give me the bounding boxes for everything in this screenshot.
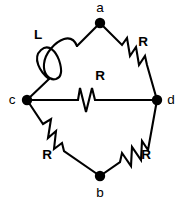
wire-c-to-b-with-resistor bbox=[27, 100, 100, 176]
branch-inductor-c-a: L bbox=[27, 23, 100, 100]
resistor-label-c-b: R bbox=[42, 147, 52, 162]
node-dot-d bbox=[152, 95, 162, 105]
inductor-coil-icon bbox=[37, 38, 77, 79]
resistor-label-a-d: R bbox=[138, 34, 148, 49]
node-dot-c bbox=[22, 95, 32, 105]
node-label-c: c bbox=[9, 92, 16, 107]
wire-b-to-d-with-resistor bbox=[100, 100, 157, 176]
circuit-canvas: L R R R R a c bbox=[0, 0, 182, 208]
wire-a-to-d-with-resistor bbox=[100, 23, 157, 100]
inductor-label-L: L bbox=[34, 27, 42, 42]
branch-resistor-b-d: R bbox=[100, 100, 157, 176]
node-a-group: a bbox=[95, 0, 105, 28]
resistor-label-c-d: R bbox=[95, 68, 105, 83]
resistor-label-b-d: R bbox=[141, 147, 151, 162]
node-c-group: c bbox=[9, 92, 33, 107]
branch-resistor-a-d: R bbox=[100, 23, 157, 100]
node-dot-a bbox=[95, 18, 105, 28]
node-label-a: a bbox=[96, 0, 104, 15]
node-label-d: d bbox=[167, 92, 175, 107]
node-b-group: b bbox=[95, 171, 105, 200]
branch-resistor-c-b: R bbox=[27, 100, 100, 176]
circuit-diagram-figure: L R R R R a c bbox=[0, 0, 182, 208]
wire-c-to-d-with-resistor bbox=[27, 88, 157, 112]
node-dot-b bbox=[95, 171, 105, 181]
node-label-b: b bbox=[96, 185, 104, 200]
